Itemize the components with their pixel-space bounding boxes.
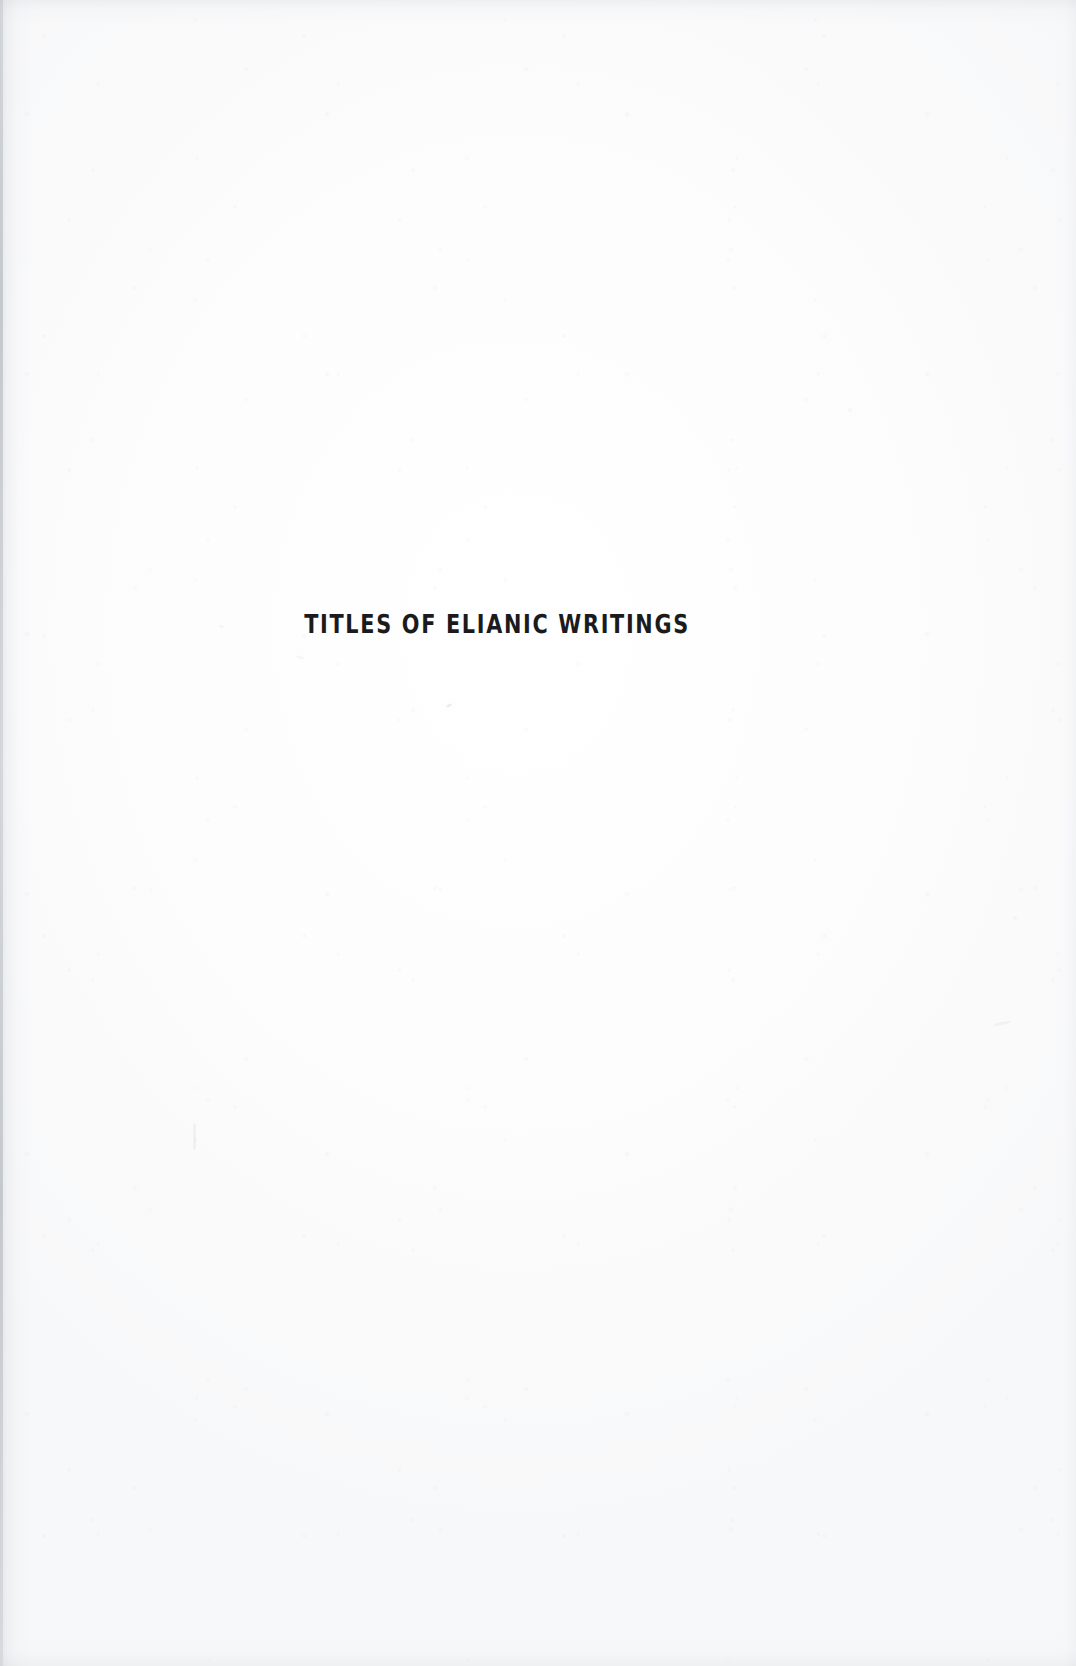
scan-edge-bottom <box>0 1636 1076 1666</box>
paper-speck <box>193 1124 196 1150</box>
page-title-block: TITLES OF ELIANIC WRITINGS <box>0 612 1076 638</box>
paper-speck <box>1013 916 1017 920</box>
paper-grain-texture <box>0 0 1076 1666</box>
scanned-page: TITLES OF ELIANIC WRITINGS <box>0 0 1076 1666</box>
page-title: TITLES OF ELIANIC WRITINGS <box>304 612 690 638</box>
scan-edge-top <box>0 0 1076 26</box>
paper-speck <box>848 408 852 412</box>
scan-edge-left-gutter <box>0 0 34 1666</box>
scan-edge-right <box>1054 0 1076 1666</box>
scan-edge-left-line <box>0 0 3 1666</box>
